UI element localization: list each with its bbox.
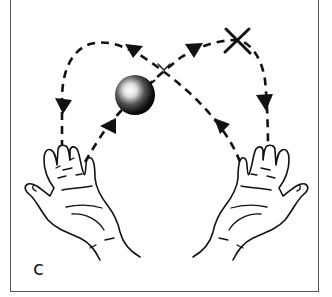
arrow-down-icon [55,98,72,114]
arrow-up-right-icon [100,118,116,134]
arrow-up-left-icon [214,118,230,134]
juggling-illustration [0,0,332,297]
arrow-down-icon [256,94,273,111]
trajectory-left-to-right [85,40,273,162]
arrow-right-icon [185,43,203,58]
ball-icon [115,75,155,115]
left-hand-icon [25,145,140,260]
peak-x-marker-icon [225,29,250,53]
panel-label: c [33,258,44,278]
right-hand-icon [193,145,308,260]
